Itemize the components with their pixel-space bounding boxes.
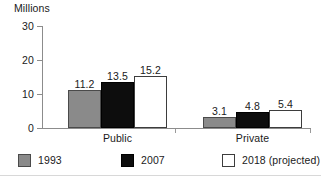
bar-value-public-2018: 15.2 (126, 64, 175, 76)
x-tick-mark-separator (175, 129, 176, 133)
legend-label-1993: 1993 (38, 154, 62, 166)
x-axis-line (42, 128, 311, 129)
bar-private-2018[interactable] (269, 110, 302, 128)
bar-chart: Millions 30 20 10 0 11.2 13.5 15.2 Publi… (0, 0, 321, 177)
y-tick-label-20: 20 (2, 54, 34, 66)
legend-label-2007: 2007 (141, 154, 165, 166)
y-tick-mark-30 (37, 26, 42, 27)
legend-swatch-2018-icon (222, 154, 235, 167)
y-axis-title: Millions (14, 2, 50, 14)
legend-item-2007[interactable]: 2007 (121, 152, 165, 168)
legend-swatch-2007-icon (121, 154, 134, 167)
bottom-divider (0, 175, 321, 176)
legend-item-2018[interactable]: 2018 (projected) (222, 152, 320, 168)
bar-public-2018[interactable] (134, 76, 167, 128)
group-label-private: Private (203, 132, 302, 144)
y-tick-label-0: 0 (2, 122, 34, 134)
y-tick-mark-10 (37, 94, 42, 95)
y-tick-mark-0 (37, 128, 42, 129)
legend-label-2018: 2018 (projected) (242, 154, 320, 166)
y-tick-label-30: 30 (2, 20, 34, 32)
legend-swatch-1993-icon (18, 154, 31, 167)
x-tick-mark-end (310, 129, 311, 133)
y-axis-line (42, 26, 43, 129)
legend: 1993 2007 2018 (projected) (0, 152, 321, 172)
bar-public-1993[interactable] (68, 90, 101, 128)
y-tick-mark-20 (37, 60, 42, 61)
y-tick-label-10: 10 (2, 88, 34, 100)
group-label-public: Public (68, 132, 167, 144)
bar-private-1993[interactable] (203, 117, 236, 128)
bar-value-private-2018: 5.4 (261, 98, 310, 110)
legend-item-1993[interactable]: 1993 (18, 152, 62, 168)
